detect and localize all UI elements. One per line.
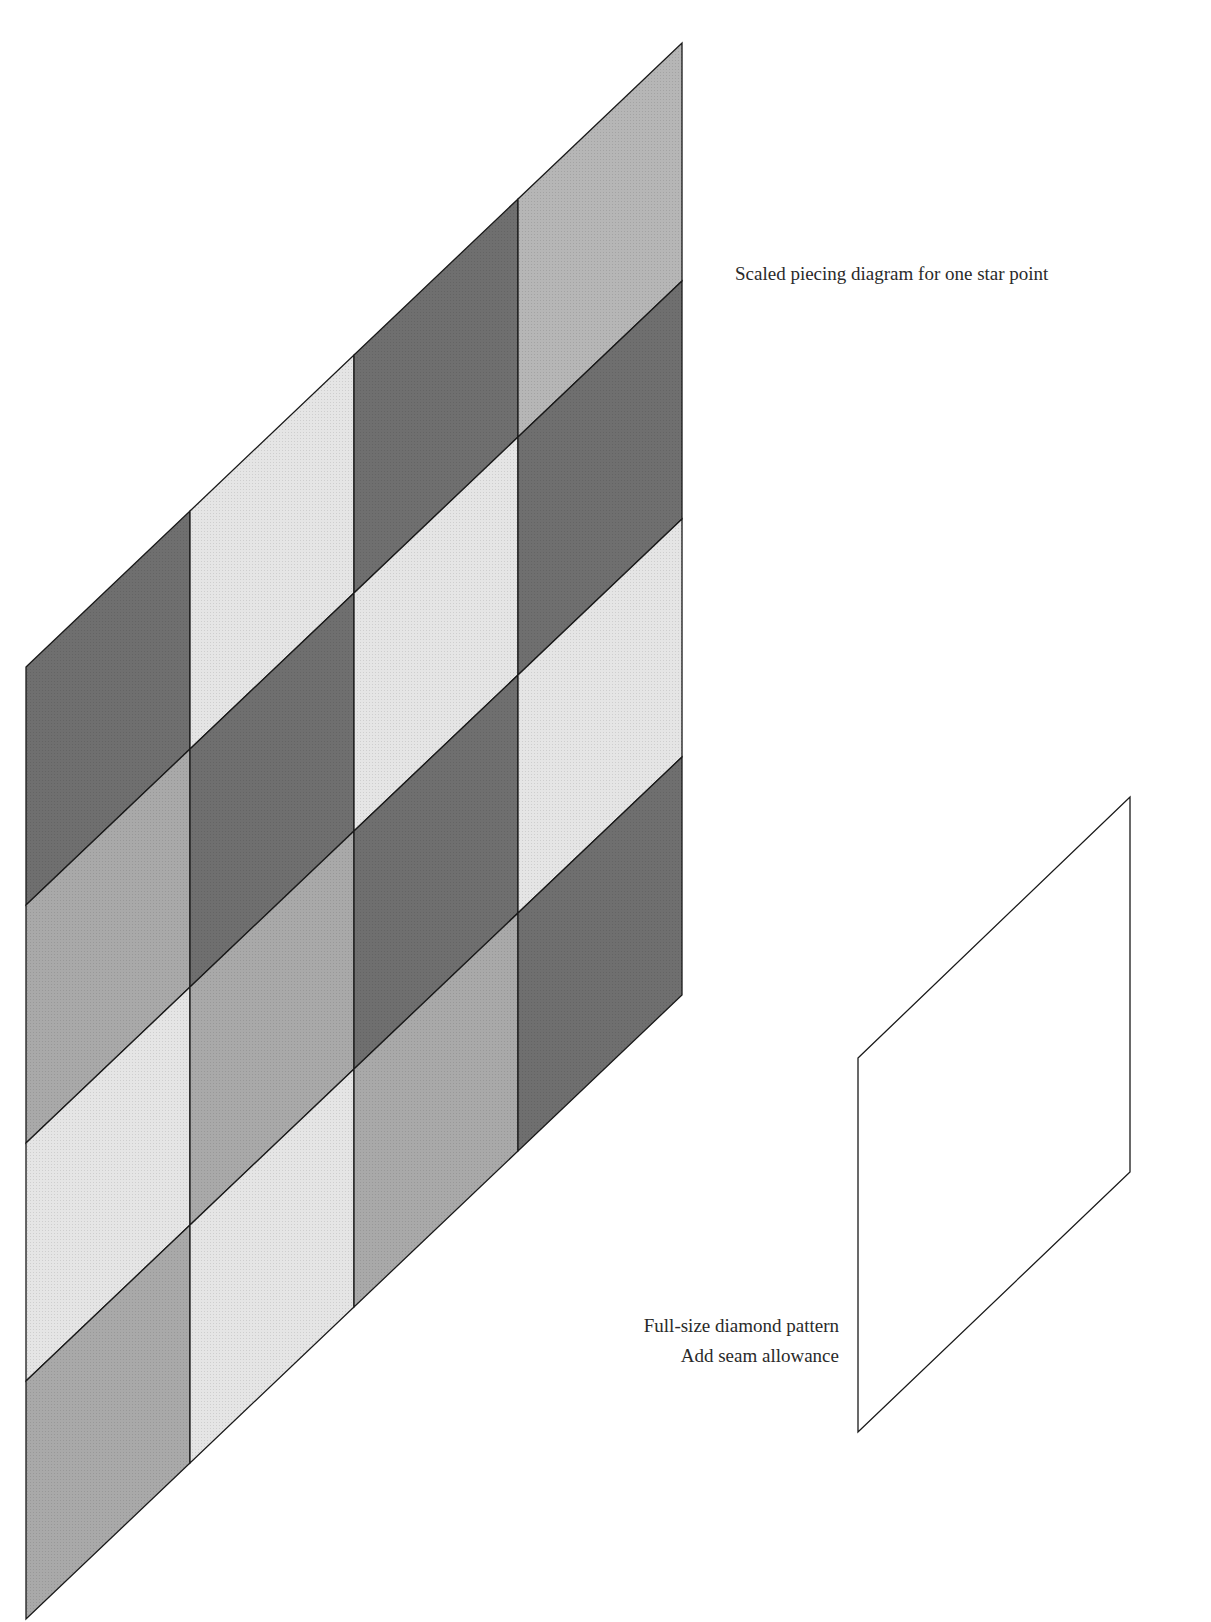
- quilt-diagram-canvas: [0, 0, 1211, 1622]
- pattern-title-caption: Full-size diamond pattern: [644, 1315, 839, 1337]
- full-size-diamond-pattern: [858, 797, 1130, 1432]
- star-point-piecing-grid: [26, 43, 682, 1619]
- seam-allowance-note: Add seam allowance: [681, 1345, 839, 1367]
- piecing-diagram-caption: Scaled piecing diagram for one star poin…: [735, 263, 1048, 285]
